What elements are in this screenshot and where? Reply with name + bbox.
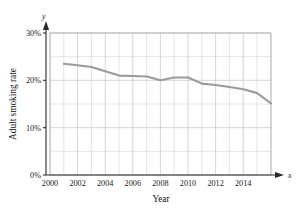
y-tick-label-0: 0% [30, 171, 41, 180]
y-axis-title: Adult smoking rate [8, 68, 18, 140]
x-axis-title: Year [152, 194, 170, 204]
y-tick-label-30: 30% [26, 29, 41, 38]
x-tick-label-2008: 2008 [152, 179, 168, 188]
x-tick-label-2004: 2004 [97, 179, 113, 188]
line-chart-svg: 30% 20% 10% 0% 2000 2002 2004 2006 2008 … [0, 0, 297, 215]
x-tick-label-2014: 2014 [235, 179, 251, 188]
chart-figure: 30% 20% 10% 0% 2000 2002 2004 2006 2008 … [0, 0, 297, 215]
x-tick-label-2000: 2000 [42, 179, 58, 188]
y-tick-label-20: 20% [26, 76, 41, 85]
y-axis [43, 21, 49, 175]
y-tick-label-10: 10% [26, 124, 41, 133]
x-axis-variable-label: x [287, 171, 292, 180]
x-tick-label-2002: 2002 [69, 179, 85, 188]
x-tick-label-2010: 2010 [180, 179, 196, 188]
x-tick-label-2012: 2012 [207, 179, 223, 188]
x-tick-label-2006: 2006 [125, 179, 141, 188]
x-axis [46, 172, 284, 178]
top-partial-text [0, 0, 297, 8]
series-line-adult-smoking-rate [64, 64, 271, 104]
y-axis-variable-label: y [41, 12, 46, 21]
